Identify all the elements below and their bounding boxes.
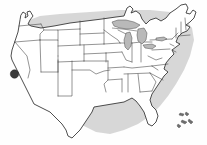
us-map-figure: United States map with location marker C… — [0, 0, 207, 145]
island-3 — [181, 120, 187, 124]
location-markers[interactable] — [10, 70, 18, 78]
island-4 — [188, 119, 193, 124]
island-5 — [177, 124, 181, 128]
california-coast-marker[interactable] — [10, 70, 18, 78]
us-map-svg — [0, 0, 207, 145]
offshore-islands — [177, 112, 193, 128]
island-2 — [185, 112, 189, 116]
island-1 — [179, 113, 184, 116]
